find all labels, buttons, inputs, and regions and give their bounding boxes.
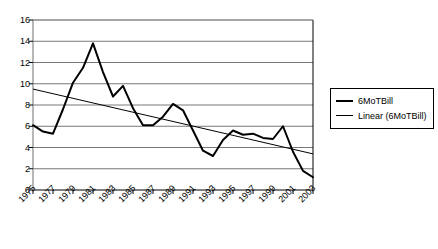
legend-label-series: 6MoTBill: [358, 96, 393, 106]
y-axis-tick-labels: 0246810121416: [0, 0, 30, 249]
y-axis-tick-label: 8: [25, 101, 30, 110]
y-axis-tick-label: 10: [20, 79, 30, 88]
series-path: [33, 43, 313, 177]
plot-svg: [0, 0, 320, 249]
legend-line-icon-series: [336, 100, 353, 102]
y-axis-tick-label: 14: [20, 37, 30, 46]
y-axis-tick-label: 4: [25, 143, 30, 152]
y-axis-tick-label: 2: [25, 164, 30, 173]
legend-label-trendline: Linear (6MoTBill): [358, 111, 427, 121]
y-axis-tick-label: 16: [20, 16, 30, 25]
line-chart: 0246810121416 19751977197919811983198519…: [0, 0, 438, 249]
y-axis-tick-label: 12: [20, 58, 30, 67]
legend-line-icon-trendline: [336, 115, 353, 116]
plot-area-wrapper: [0, 0, 320, 249]
trendline-path: [33, 89, 313, 154]
y-axis-tick-label: 6: [25, 122, 30, 131]
chart-legend: 6MoTBill Linear (6MoTBill): [330, 88, 434, 129]
legend-item-trendline: Linear (6MoTBill): [336, 108, 428, 123]
legend-item-series: 6MoTBill: [336, 93, 428, 108]
